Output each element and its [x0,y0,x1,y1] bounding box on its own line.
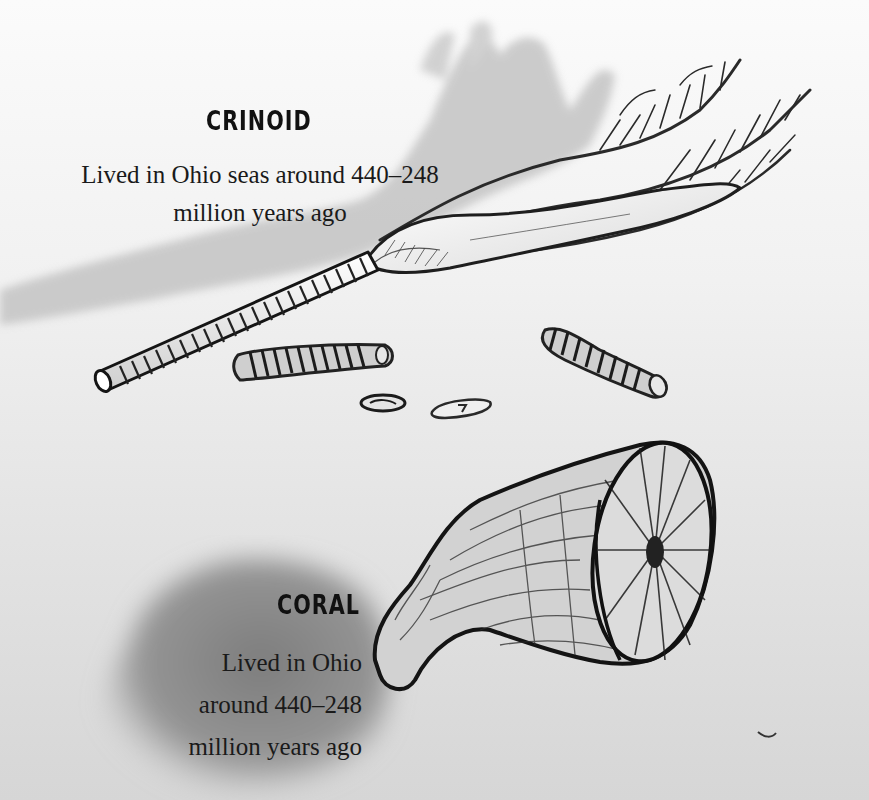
crinoid-caption: Lived in Ohio seas around 440–248 millio… [20,156,500,232]
crinoid-title: CRINOID [206,106,312,136]
coral-caption-line: Lived in Ohio [120,642,362,684]
coral-title: CORAL [250,590,360,620]
crinoid-caption-line: Lived in Ohio seas around 440–248 [20,156,500,194]
speck-mark [758,732,776,737]
crinoid-stem-fragment [542,328,669,399]
coral-caption-line: million years ago [120,726,362,768]
coral-caption-line: around 440–248 [120,684,362,726]
crinoid-stem-fragment [234,345,393,380]
coral-caption: Lived in Ohio around 440–248 million yea… [120,642,362,768]
crinoid-caption-line: million years ago [20,194,500,232]
coral-drawing [375,435,776,737]
crinoid-ossicle [432,400,491,418]
crinoid-ossicle [361,395,405,411]
